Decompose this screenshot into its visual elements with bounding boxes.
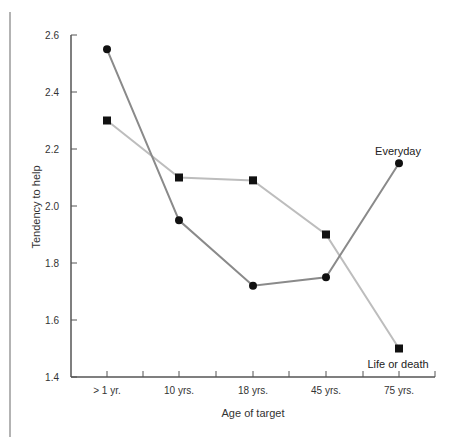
series-markers bbox=[103, 45, 403, 352]
y-tick-label: 2.0 bbox=[45, 201, 59, 212]
x-axis-title: Age of target bbox=[222, 407, 285, 419]
y-tick-label: 1.4 bbox=[45, 372, 59, 383]
data-point-life-or-death bbox=[103, 117, 111, 125]
data-point-everyday bbox=[175, 216, 183, 224]
x-tick-label: 18 yrs. bbox=[238, 385, 268, 396]
series-label-life-or-death: Life or death bbox=[367, 358, 428, 370]
data-point-everyday bbox=[103, 45, 111, 53]
data-point-life-or-death bbox=[395, 345, 403, 353]
y-axis-title: Tendency to help bbox=[30, 165, 42, 248]
x-tick-label: 10 yrs. bbox=[164, 385, 194, 396]
y-tick-label: 1.8 bbox=[45, 258, 59, 269]
y-tick-label: 2.2 bbox=[45, 144, 59, 155]
y-tick-label: 1.6 bbox=[45, 315, 59, 326]
x-tick-label: 75 yrs. bbox=[384, 385, 414, 396]
y-tick-label: 2.6 bbox=[45, 30, 59, 41]
x-tick-label: 45 yrs. bbox=[311, 385, 341, 396]
data-point-life-or-death bbox=[175, 174, 183, 182]
data-point-everyday bbox=[249, 282, 257, 290]
data-point-life-or-death bbox=[322, 231, 330, 239]
data-point-everyday bbox=[395, 159, 403, 167]
series-line-everyday bbox=[107, 49, 399, 285]
series-lines bbox=[107, 49, 399, 348]
x-tick-label: > 1 yr. bbox=[93, 385, 121, 396]
line-chart: 1.41.61.82.02.22.42.6 > 1 yr.10 yrs.18 y… bbox=[0, 0, 456, 438]
y-axis: 1.41.61.82.02.22.42.6 bbox=[45, 30, 77, 383]
x-axis: > 1 yr.10 yrs.18 yrs.45 yrs.75 yrs. bbox=[71, 371, 435, 396]
data-point-everyday bbox=[322, 273, 330, 281]
y-tick-label: 2.4 bbox=[45, 87, 59, 98]
data-point-life-or-death bbox=[249, 176, 257, 184]
series-label-everyday: Everyday bbox=[375, 145, 421, 157]
